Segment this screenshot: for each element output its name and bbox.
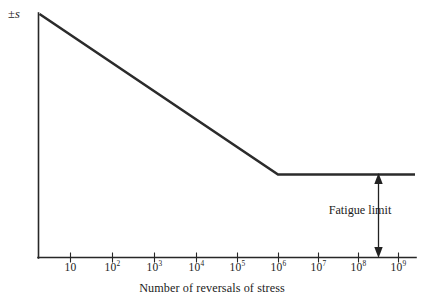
fatigue-curve-figure: ±s 10 102 103 104 105 106 107 108 109 Fa… [0,0,424,307]
tick-label-10e2: 102 [105,261,121,273]
y-axis-label: ±s [8,7,20,22]
arrow-head-down-icon [374,247,382,258]
tick-label-10e1: 10 [65,261,77,273]
tick-label-10e7: 107 [311,261,327,273]
tick-label-10e9: 109 [391,261,407,273]
sn-curve [40,14,416,175]
y-axis-label-prefix: ± [8,7,15,21]
tick-label-10e6: 106 [271,261,287,273]
y-axis-label-variable: s [15,7,20,21]
tick-label-10e8: 108 [351,261,367,273]
tick-label-10e3: 103 [147,261,163,273]
x-axis-title: Number of reversals of stress [0,281,424,296]
fatigue-limit-label: Fatigue limit [300,203,420,218]
tick-label-10e5: 105 [230,261,246,273]
tick-label-10e4: 104 [189,261,205,273]
